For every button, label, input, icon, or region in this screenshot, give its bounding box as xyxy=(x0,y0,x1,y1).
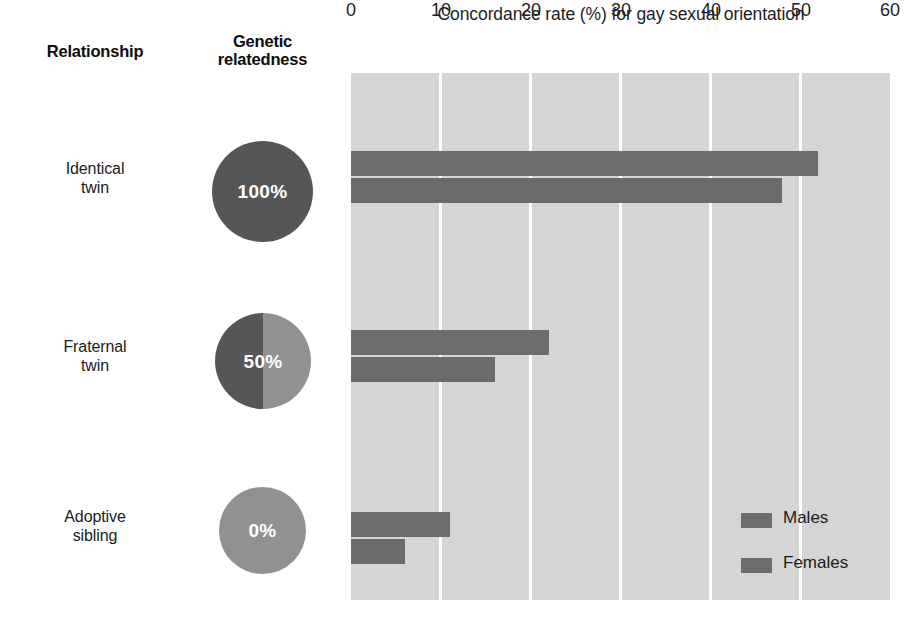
x-tick-0: 0 xyxy=(321,0,381,21)
bar-fraternal-twin-males xyxy=(351,330,549,355)
x-tick-10: 10 xyxy=(411,0,471,21)
plot-area: Males Females xyxy=(351,73,890,600)
x-tick-60: 60 xyxy=(860,0,918,21)
row-label-identical-twin: Identical twin xyxy=(0,160,190,197)
bar-identical-twin-males xyxy=(351,151,818,176)
x-tick-20: 20 xyxy=(501,0,561,21)
x-tick-30: 30 xyxy=(591,0,651,21)
column-header-genetic-line1: Genetic xyxy=(190,32,335,50)
genetic-circle-label: 0% xyxy=(219,520,306,542)
genetic-circle-identical-twin: 100% xyxy=(212,141,313,242)
genetic-circle-label: 100% xyxy=(212,181,313,203)
bar-fraternal-twin-females xyxy=(351,357,495,382)
row-label-line1: Identical xyxy=(0,160,190,179)
column-header-relationship: Relationship xyxy=(0,42,190,60)
legend-swatch-males xyxy=(741,513,772,528)
genetic-circle-fraternal-twin: 50% xyxy=(215,313,311,409)
genetic-circle-label: 50% xyxy=(215,351,311,373)
column-header-genetic-relatedness: Genetic relatedness xyxy=(190,32,335,69)
row-label-line1: Adoptive xyxy=(0,508,190,527)
legend-label-females: Females xyxy=(783,553,848,573)
row-label-line1: Fraternal xyxy=(0,338,190,357)
column-header-genetic-line2: relatedness xyxy=(190,50,335,68)
genetic-circle-adoptive-sibling: 0% xyxy=(219,487,306,574)
bar-adoptive-sibling-females xyxy=(351,539,405,564)
bar-identical-twin-females xyxy=(351,178,782,203)
x-tick-50: 50 xyxy=(771,0,831,21)
x-tick-40: 40 xyxy=(681,0,741,21)
chart-canvas: Concordance rate (%) for gay sexual orie… xyxy=(0,0,918,622)
row-label-line2: sibling xyxy=(0,527,190,546)
legend-swatch-females xyxy=(741,558,772,573)
legend-label-males: Males xyxy=(783,508,828,528)
bar-adoptive-sibling-males xyxy=(351,512,450,537)
row-label-line2: twin xyxy=(0,179,190,198)
row-label-fraternal-twin: Fraternal twin xyxy=(0,338,190,375)
row-label-adoptive-sibling: Adoptive sibling xyxy=(0,508,190,545)
row-label-line2: twin xyxy=(0,357,190,376)
